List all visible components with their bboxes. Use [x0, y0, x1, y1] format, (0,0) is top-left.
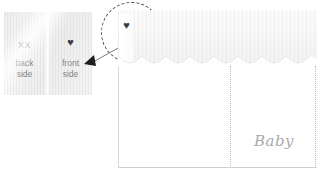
label-back-caption: back side [4, 58, 45, 79]
baby-script-text: Baby [254, 132, 294, 150]
heart-icon: ♥ [119, 20, 134, 31]
label-front-caption-line1: front [62, 58, 79, 68]
garment-lower-panel [118, 66, 317, 168]
callout-arrow [82, 45, 122, 71]
label-back-caption-line1: back [16, 58, 34, 68]
label-back-mark: XX [4, 40, 45, 50]
care-label-swatch: XX back side ♥ front side [4, 12, 92, 95]
label-half-back: XX back side [4, 12, 45, 95]
garment-illustration: ♥ [118, 10, 317, 168]
label-back-caption-line2: side [17, 69, 33, 79]
garment-seam-right [315, 66, 316, 166]
diagram-canvas: XX back side ♥ front side ♥ [0, 0, 324, 178]
garment-seam-center [230, 66, 231, 166]
label-front-caption-line2: side [63, 69, 79, 79]
